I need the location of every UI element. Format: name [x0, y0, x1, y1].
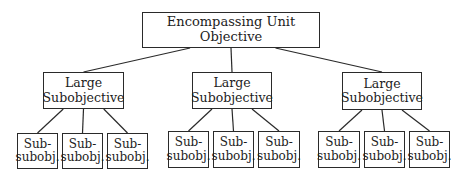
connector-line: [189, 109, 213, 131]
sub-subobjective-box-3-2: Sub- subobj.: [364, 131, 405, 168]
connector-line: [252, 109, 279, 131]
sub-subobjective-label: Sub- subobj.: [167, 136, 211, 162]
sub-subobjective-box-2-3: Sub- subobj.: [258, 131, 300, 168]
large-subobjective-label: Large Subobjective: [341, 77, 423, 106]
large-subobjective-label: Large Subobjective: [191, 76, 273, 105]
large-subobjective-box-3: Large Subobjective: [342, 72, 422, 110]
root-objective-label: Encompassing Unit Objective: [143, 15, 319, 45]
connector-line: [402, 110, 430, 131]
sub-subobjective-box-1-1: Sub- subobj.: [17, 133, 58, 169]
connector-line: [382, 110, 385, 131]
connector-line: [276, 48, 383, 72]
sub-subobjective-label: Sub- subobj.: [317, 136, 361, 162]
connector-line: [83, 109, 84, 133]
sub-subobjective-box-2-1: Sub- subobj.: [168, 131, 209, 168]
connector-line: [38, 109, 64, 133]
sub-subobjective-box-3-3: Sub- subobj.: [409, 131, 450, 168]
sub-subobjective-box-2-2: Sub- subobj.: [213, 131, 254, 168]
sub-subobjective-label: Sub- subobj.: [212, 136, 256, 162]
sub-subobjective-label: Sub- subobj.: [61, 138, 105, 164]
sub-subobjective-label: Sub- subobj.: [16, 138, 60, 164]
connector-line: [231, 48, 232, 72]
sub-subobjective-box-3-1: Sub- subobj.: [318, 131, 360, 168]
connector-line: [104, 109, 128, 133]
root-objective-box: Encompassing Unit Objective: [142, 12, 320, 48]
connector-line: [339, 110, 362, 131]
large-subobjective-label: Large Subobjective: [43, 76, 125, 105]
connector-line: [232, 109, 234, 131]
sub-subobjective-label: Sub- subobj.: [408, 136, 452, 162]
sub-subobjective-box-1-2: Sub- subobj.: [62, 133, 103, 169]
objective-hierarchy-diagram: Encompassing Unit Objective Large Subobj…: [0, 0, 471, 182]
sub-subobjective-label: Sub- subobj.: [106, 138, 150, 164]
connector-line: [84, 48, 191, 72]
large-subobjective-box-1: Large Subobjective: [43, 72, 124, 109]
sub-subobjective-label: Sub- subobj.: [363, 136, 407, 162]
sub-subobjective-box-1-3: Sub- subobj.: [107, 133, 148, 169]
large-subobjective-box-2: Large Subobjective: [192, 72, 272, 109]
sub-subobjective-label: Sub- subobj.: [257, 136, 301, 162]
